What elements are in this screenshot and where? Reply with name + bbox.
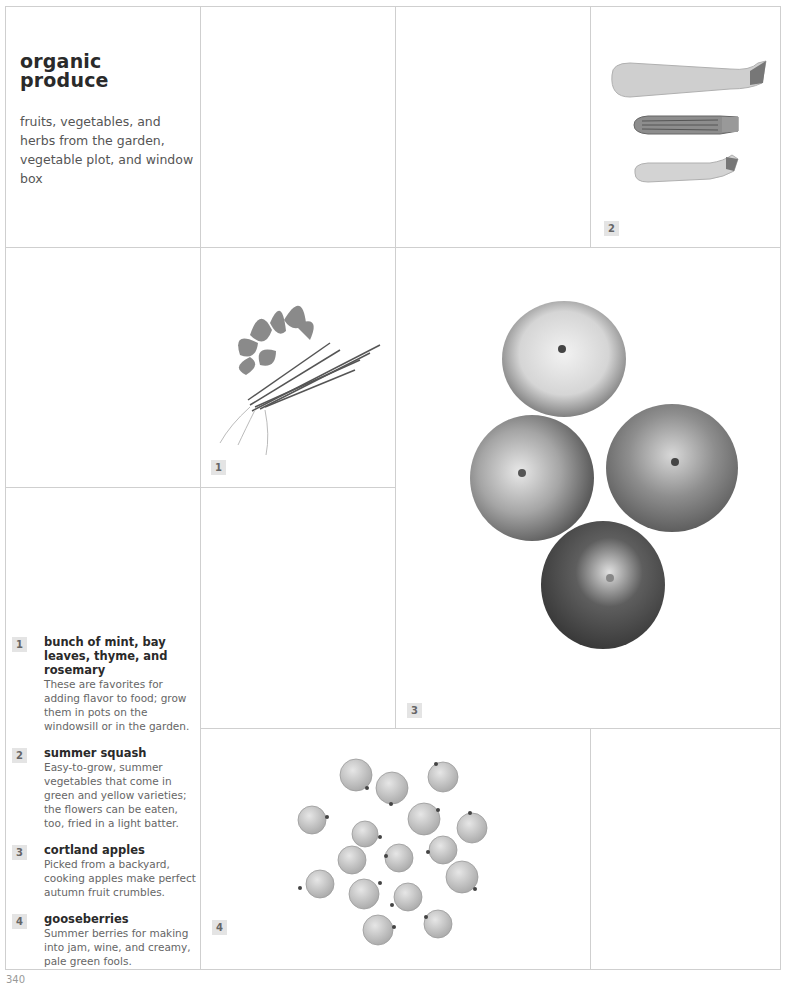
caption-title: gooseberries	[44, 912, 197, 926]
grid-line	[5, 247, 781, 248]
caption-title: summer squash	[44, 746, 197, 760]
caption-title: bunch of mint, bay leaves, thyme, and ro…	[44, 635, 197, 677]
photo-number-badge-1: 1	[211, 460, 226, 475]
caption-item-2: 2 summer squash Easy-to-grow, summer veg…	[12, 746, 197, 830]
gooseberries-image	[290, 755, 500, 955]
grid-line	[200, 728, 781, 729]
page-title: organic produce	[20, 52, 109, 90]
caption-title: cortland apples	[44, 843, 197, 857]
title-line-2: produce	[20, 71, 109, 90]
caption-number-badge: 1	[12, 637, 27, 652]
caption-body: Easy-to-grow, summer vegetables that com…	[44, 760, 197, 830]
caption-item-3: 3 cortland apples Picked from a backyard…	[12, 843, 197, 899]
herb-bundle-image	[210, 295, 390, 455]
caption-body: Picked from a backyard, cooking apples m…	[44, 857, 197, 899]
grid-line	[590, 728, 591, 970]
page-subtitle: fruits, vegetables, and herbs from the g…	[20, 112, 195, 188]
grid-line	[395, 6, 396, 247]
caption-body: Summer berries for making into jam, wine…	[44, 926, 197, 968]
grid-line	[5, 487, 395, 488]
apples-image	[460, 295, 750, 655]
caption-number-badge: 3	[12, 845, 27, 860]
grid-line	[395, 247, 396, 728]
caption-item-4: 4 gooseberries Summer berries for making…	[12, 912, 197, 968]
caption-number-badge: 2	[12, 748, 27, 763]
page-number: 340	[6, 974, 25, 985]
caption-number-badge: 4	[12, 914, 27, 929]
caption-body: These are favorites for adding flavor to…	[44, 677, 197, 733]
caption-list: 1 bunch of mint, bay leaves, thyme, and …	[12, 635, 197, 981]
photo-number-badge-3: 3	[407, 703, 422, 718]
photo-number-badge-4: 4	[212, 920, 227, 935]
grid-line	[590, 6, 591, 247]
grid-line	[200, 6, 201, 970]
photo-number-badge-2: 2	[604, 221, 619, 236]
caption-item-1: 1 bunch of mint, bay leaves, thyme, and …	[12, 635, 197, 733]
squash-image	[600, 55, 780, 200]
